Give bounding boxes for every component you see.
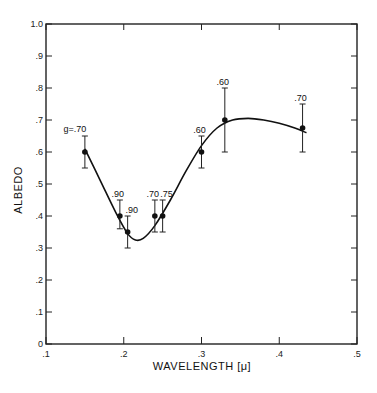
y-tick-label: .3 (35, 243, 43, 253)
albedo-chart: 0.1.2.3.4.5.6.7.8.91.0 .1.2.3.4.5 g=.70.… (0, 0, 377, 393)
point-marker (82, 149, 88, 155)
data-point: .70 (147, 189, 160, 232)
y-tick-label: .8 (35, 83, 43, 93)
y-tick-label: .1 (35, 307, 43, 317)
data-point: .60 (217, 77, 230, 152)
point-label: .60 (193, 125, 206, 135)
y-tick-label: 0 (38, 339, 43, 349)
point-label: .90 (112, 189, 125, 199)
x-tick-label: .4 (275, 349, 283, 359)
data-points: g=.70.90.90.70.75.60.60.70 (63, 77, 306, 248)
point-marker (222, 117, 228, 123)
point-label: .70 (294, 93, 307, 103)
point-marker (125, 229, 131, 235)
plot-border (46, 24, 357, 344)
y-tick-label: .4 (35, 211, 43, 221)
point-marker (160, 213, 166, 219)
data-point: g=.70 (63, 124, 87, 168)
point-marker (199, 149, 205, 155)
y-axis: 0.1.2.3.4.5.6.7.8.91.0 (30, 19, 357, 349)
y-axis-title: ALBEDO (12, 166, 24, 214)
x-axis-title: WAVELENGTH [μ] (153, 360, 251, 372)
point-label: .70 (147, 189, 160, 199)
point-label: .75 (160, 189, 173, 199)
x-tick-label: .2 (120, 349, 128, 359)
data-point: .60 (193, 125, 206, 168)
plot-frame (46, 24, 357, 344)
y-tick-label: .7 (35, 115, 43, 125)
data-point: .90 (125, 205, 138, 248)
y-tick-label: .6 (35, 147, 43, 157)
point-label: .60 (217, 77, 230, 87)
y-tick-label: .5 (35, 179, 43, 189)
point-marker (152, 213, 158, 219)
x-tick-label: .1 (42, 349, 50, 359)
point-label: .90 (125, 205, 138, 215)
x-axis: .1.2.3.4.5 (42, 24, 361, 359)
point-marker (300, 125, 306, 131)
y-tick-label: .2 (35, 275, 43, 285)
point-label: g=.70 (63, 124, 86, 134)
data-point: .70 (294, 93, 307, 152)
y-tick-label: .9 (35, 51, 43, 61)
fitted-curve (85, 118, 307, 240)
point-marker (117, 213, 123, 219)
x-tick-label: .5 (353, 349, 361, 359)
data-point: .75 (160, 189, 173, 232)
x-tick-label: .3 (198, 349, 206, 359)
y-tick-label: 1.0 (30, 19, 43, 29)
